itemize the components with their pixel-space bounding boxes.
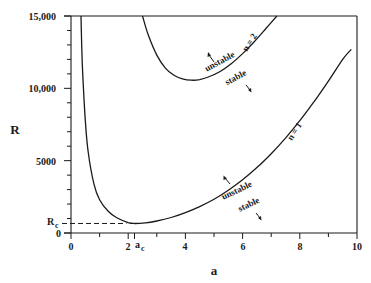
n1-stable-arrow xyxy=(256,213,262,221)
rc-label-sub: c xyxy=(55,221,59,230)
y-tick-label-15000: 15,000 xyxy=(29,11,57,22)
x-tick-label-2: 2 xyxy=(126,241,131,252)
n2-stable-label: stable xyxy=(223,68,248,87)
ac-label-sub: c xyxy=(141,244,145,253)
n2-unstable-label: unstable xyxy=(203,49,236,73)
y-axis-ticks xyxy=(64,16,71,233)
n2-label: n = 2 xyxy=(240,31,259,53)
x-tick-label-0: 0 xyxy=(69,241,74,252)
n1-label: n = 1 xyxy=(285,120,304,142)
stability-chart: 15,000 10,000 5000 0 R c 0 2 4 6 8 10 a … xyxy=(0,0,371,283)
y-tick-label-10000: 10,000 xyxy=(29,83,57,94)
x-axis-title: a xyxy=(211,263,218,278)
ac-label: a c xyxy=(135,239,145,253)
x-axis-ticks xyxy=(71,233,357,239)
x-tick-label-10: 10 xyxy=(352,241,362,252)
curve-n1 xyxy=(81,16,351,224)
n1-stable-label: stable xyxy=(236,195,261,214)
ac-label-main: a xyxy=(135,239,140,250)
x-tick-label-6: 6 xyxy=(241,241,246,252)
plot-frame xyxy=(64,16,357,233)
rc-label-main: R xyxy=(47,216,55,227)
x-tick-label-4: 4 xyxy=(183,241,188,252)
n1-unstable-arrow xyxy=(224,176,231,185)
y-tick-label-5000: 5000 xyxy=(36,156,56,167)
y-axis-title: R xyxy=(10,122,20,137)
rc-label: R c xyxy=(47,216,59,230)
x-tick-label-8: 8 xyxy=(298,241,303,252)
n2-stable-arrow xyxy=(246,85,252,93)
